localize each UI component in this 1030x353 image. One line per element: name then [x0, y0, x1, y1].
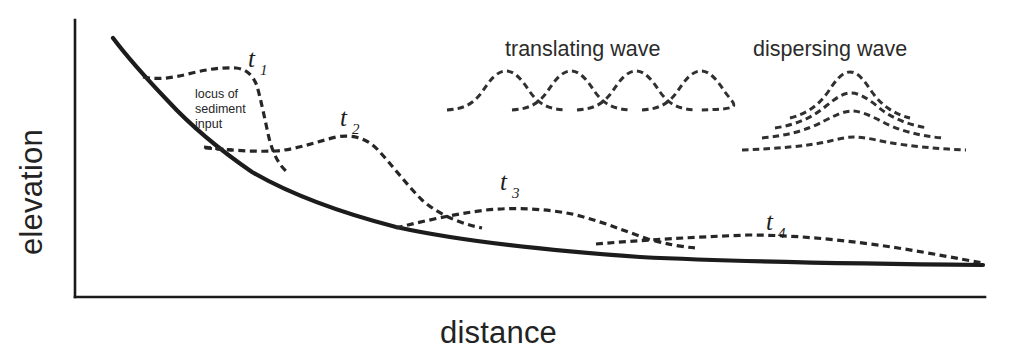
translating-wave-curve-2 — [512, 71, 630, 110]
translating-wave-curve-1 — [447, 71, 565, 110]
dispersing-wave-title: dispersing wave — [753, 37, 907, 61]
time-label-t1-base: t — [248, 45, 256, 72]
translating-wave-curve-4 — [642, 71, 734, 110]
sediment-locus-line-1: locus of — [195, 87, 239, 101]
axis-group — [75, 20, 985, 297]
x-axis-label: distance — [440, 315, 557, 350]
time-label-t1: t 1 — [248, 45, 268, 78]
time-label-t2: t 2 — [340, 104, 360, 137]
dispersing-wave-curve-1 — [790, 72, 910, 118]
time-label-t2-sub: 2 — [352, 121, 360, 137]
dispersing-wave-curve-4 — [742, 137, 966, 150]
sediment-locus-line-3: input — [195, 117, 223, 131]
t2-profile-curve — [204, 136, 482, 228]
time-label-t4-base: t — [766, 208, 774, 235]
time-label-t3: t 3 — [500, 168, 520, 201]
y-axis-label: elevation — [14, 129, 49, 255]
dispersing-wave-curve-2 — [775, 93, 928, 128]
time-label-t4-sub: 4 — [778, 225, 786, 241]
translating-wave-curve-3 — [577, 71, 695, 110]
time-label-t3-sub: 3 — [511, 185, 520, 201]
elevation-distance-diagram: elevation distance t 1 t 2 t 3 t 4 — [0, 0, 1030, 353]
time-label-t2-base: t — [340, 104, 348, 131]
time-label-t1-sub: 1 — [260, 62, 268, 78]
sediment-locus-annotation: locus of sediment input — [195, 87, 246, 131]
figure-root: elevation distance t 1 t 2 t 3 t 4 — [0, 0, 1030, 353]
dispersing-wave-inset: dispersing wave — [742, 37, 966, 150]
translating-wave-title: translating wave — [505, 37, 660, 61]
sediment-locus-line-2: sediment — [195, 102, 246, 116]
translating-wave-inset: translating wave — [447, 37, 734, 110]
time-label-t3-base: t — [500, 168, 508, 195]
